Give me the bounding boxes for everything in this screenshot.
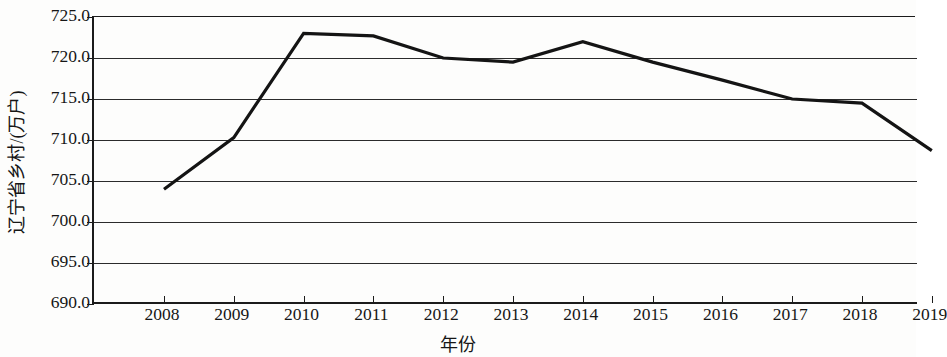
x-tick-label: 2012: [424, 306, 459, 324]
x-tick-label: 2016: [703, 306, 738, 324]
y-tick-label: 690.0: [51, 294, 90, 312]
x-tick-label: 2015: [633, 306, 668, 324]
y-tick-label: 715.0: [51, 89, 90, 107]
y-tick-mark: [87, 140, 94, 141]
y-tick-mark: [87, 17, 94, 18]
y-tick-label: 725.0: [51, 7, 90, 25]
x-tick-label: 2009: [214, 306, 249, 324]
x-tick-label: 2010: [284, 306, 319, 324]
x-axis-title: 年份: [0, 330, 916, 356]
data-line-series: [94, 17, 917, 304]
x-tick-label: 2017: [773, 306, 808, 324]
y-axis-tick-labels: 690.0695.0700.0705.0710.0715.0720.0725.0: [28, 0, 90, 357]
y-tick-mark: [87, 99, 94, 100]
x-tick-mark: [932, 296, 933, 303]
y-axis-title: 辽宁省乡村/(万户): [2, 28, 28, 296]
y-tick-label: 710.0: [51, 130, 90, 148]
plot-area: [92, 16, 915, 303]
x-tick-label: 2014: [563, 306, 598, 324]
y-tick-mark: [87, 263, 94, 264]
y-tick-mark: [87, 58, 94, 59]
x-tick-label: 2011: [354, 306, 388, 324]
x-tick-label: 2019: [912, 306, 947, 324]
x-tick-label: 2018: [843, 306, 878, 324]
x-tick-label: 2008: [145, 306, 180, 324]
y-tick-label: 705.0: [51, 171, 90, 189]
y-tick-label: 720.0: [51, 48, 90, 66]
y-tick-mark: [87, 304, 94, 305]
y-tick-mark: [87, 181, 94, 182]
y-tick-label: 695.0: [51, 253, 90, 271]
y-tick-mark: [87, 222, 94, 223]
x-tick-label: 2013: [494, 306, 529, 324]
y-tick-label: 700.0: [51, 212, 90, 230]
data-line: [164, 33, 932, 189]
